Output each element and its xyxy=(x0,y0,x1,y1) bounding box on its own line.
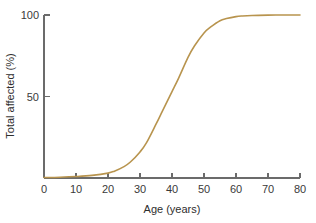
y-tick-label: 50 xyxy=(27,91,39,103)
x-tick-label: 20 xyxy=(102,183,114,195)
chart-figure: 01020304050607080 50100 Age (years) Tota… xyxy=(0,0,316,223)
x-axis-tick-labels: 01020304050607080 xyxy=(41,183,306,195)
x-tick-label: 30 xyxy=(134,183,146,195)
chart-canvas: 01020304050607080 50100 Age (years) Tota… xyxy=(0,0,316,223)
x-tick-label: 40 xyxy=(166,183,178,195)
x-tick-label: 70 xyxy=(262,183,274,195)
y-axis-title: Total affected (%) xyxy=(4,53,16,138)
y-axis-ticks xyxy=(44,15,50,97)
x-tick-label: 10 xyxy=(70,183,82,195)
x-tick-label: 80 xyxy=(294,183,306,195)
y-tick-label: 100 xyxy=(21,9,39,21)
x-axis-title: Age (years) xyxy=(144,203,201,215)
y-axis-tick-labels: 50100 xyxy=(21,9,39,103)
x-tick-label: 50 xyxy=(198,183,210,195)
x-tick-label: 60 xyxy=(230,183,242,195)
data-curve-total-affected xyxy=(44,15,300,178)
x-tick-label: 0 xyxy=(41,183,47,195)
